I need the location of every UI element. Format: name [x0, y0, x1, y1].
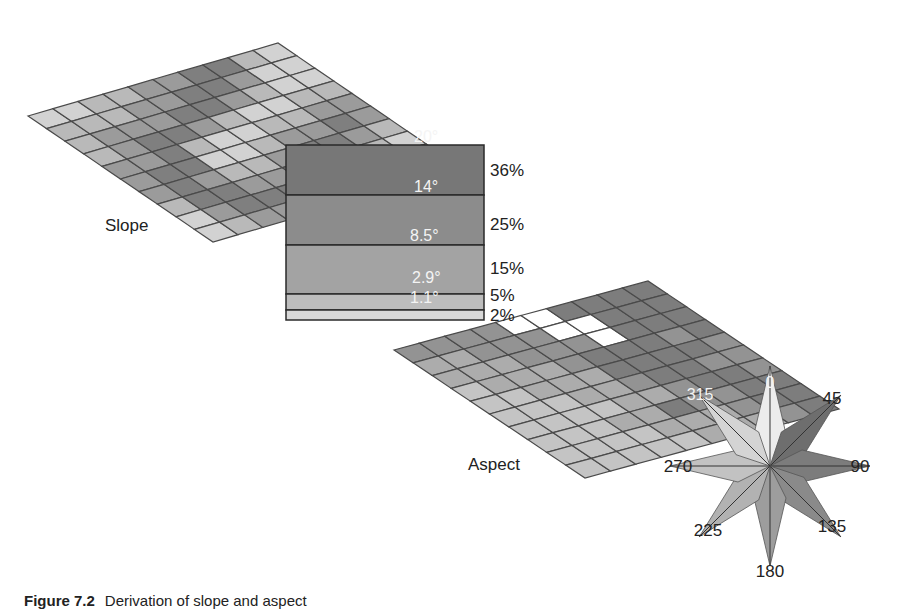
legend-percent-label: 36%	[490, 161, 524, 180]
figure-caption-text: Derivation of slope and aspect	[105, 592, 307, 609]
legend-percent-label: 2%	[490, 306, 515, 325]
slope-legend: 20°14°8.5°2.9°1.1°36%25%15%5%2%	[286, 128, 524, 325]
compass-direction-label: 270	[664, 457, 692, 476]
legend-percent-label: 5%	[490, 286, 515, 305]
slope-label: Slope	[105, 216, 148, 235]
legend-band	[286, 294, 484, 310]
aspect-compass-rose: 04590135180225270315	[664, 366, 870, 581]
legend-degree-label: 1.1°	[410, 289, 439, 306]
legend-degree-label: 20°	[414, 128, 438, 145]
legend-band	[286, 145, 484, 195]
compass-direction-label: 315	[687, 386, 714, 403]
legend-degree-label: 8.5°	[410, 227, 439, 244]
legend-degree-label: 2.9°	[412, 269, 441, 286]
legend-band	[286, 245, 484, 294]
compass-direction-label: 45	[823, 389, 842, 408]
aspect-label: Aspect	[468, 455, 520, 474]
compass-direction-label: 0	[766, 374, 775, 391]
figure-number: Figure 7.2	[24, 592, 95, 609]
compass-direction-label: 135	[818, 517, 846, 536]
compass-direction-label: 180	[756, 562, 784, 581]
legend-percent-label: 15%	[490, 259, 524, 278]
compass-direction-label: 225	[694, 521, 722, 540]
legend-band	[286, 310, 484, 320]
compass-direction-label: 90	[851, 457, 870, 476]
legend-percent-label: 25%	[490, 215, 524, 234]
figure-caption: Figure 7.2Derivation of slope and aspect	[24, 592, 307, 609]
legend-band	[286, 195, 484, 245]
legend-degree-label: 14°	[414, 178, 438, 195]
